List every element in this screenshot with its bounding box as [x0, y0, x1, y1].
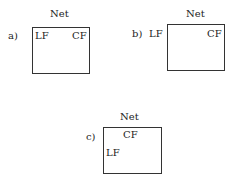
panel-label: a) — [8, 31, 18, 41]
lf-label: LF — [35, 31, 49, 41]
panel-label: c) — [86, 132, 96, 142]
net-title: Net — [50, 9, 69, 19]
net-title: Net — [186, 9, 205, 19]
net-title: Net — [120, 112, 139, 122]
lf-label: LF — [106, 148, 120, 158]
cf-label: CF — [72, 31, 87, 41]
cf-label: CF — [207, 29, 222, 39]
cf-label: CF — [123, 130, 138, 140]
panel-label: b) — [132, 29, 142, 39]
lf-label: LF — [149, 29, 163, 39]
